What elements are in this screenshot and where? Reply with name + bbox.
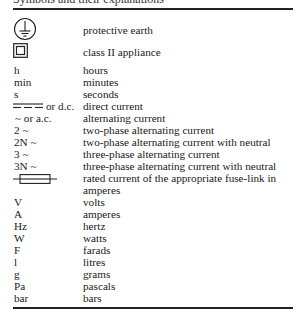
entry-symbol: F [14, 244, 20, 256]
entry-meaning: protective earth [83, 24, 153, 36]
entry-meaning: grams [83, 268, 110, 280]
fuse-link-icon [13, 174, 57, 184]
table-row: g grams [0, 268, 304, 280]
entry-symbol: A [14, 208, 22, 220]
table-row: rated current of the appropriate fuse-li… [0, 172, 304, 196]
entry-meaning: hours [83, 64, 108, 76]
entry-symbol: h [14, 64, 20, 76]
entry-meaning: pascals [83, 280, 115, 292]
bottom-rule [13, 307, 293, 309]
table-row: 3 ~ three-phase alternating current [0, 148, 304, 160]
clipped-header-text: Symbols and their explanations [13, 0, 164, 7]
table-row: W watts [0, 232, 304, 244]
table-row: class II appliance [0, 43, 304, 59]
entry-meaning: seconds [83, 88, 118, 100]
table-row: F farads [0, 244, 304, 256]
entry-meaning: three-phase alternating current with neu… [83, 160, 276, 172]
entry-symbol: bar [14, 292, 28, 304]
entry-meaning: two-phase alternating current [83, 124, 214, 136]
table-row: 3N ~ three-phase alternating current wit… [0, 160, 304, 172]
entry-meaning: direct current [83, 100, 143, 112]
table-row: Hz hertz [0, 220, 304, 232]
entry-meaning-continued: amperes [83, 184, 120, 196]
entry-meaning: litres [83, 256, 105, 268]
entry-symbol: min [14, 76, 31, 88]
entry-symbol: Hz [14, 220, 27, 232]
entry-symbol: s [14, 88, 18, 100]
entry-symbol: g [14, 268, 20, 280]
table-row: V volts [0, 196, 304, 208]
entry-meaning: amperes [83, 208, 120, 220]
table-row: Pa pascals [0, 280, 304, 292]
table-row: or d.c. direct current [0, 100, 304, 112]
entry-meaning: minutes [83, 76, 118, 88]
table-row: A amperes [0, 208, 304, 220]
entry-meaning: watts [83, 232, 107, 244]
entry-meaning: rated current of the appropriate fuse-li… [83, 172, 276, 184]
entry-meaning: two-phase alternating current with neutr… [83, 136, 271, 148]
table-row: ~ or a.c. alternating current [0, 112, 304, 124]
direct-current-icon [13, 103, 43, 109]
table-row: 2 ~ two-phase alternating current [0, 124, 304, 136]
protective-earth-icon [13, 17, 37, 41]
entry-meaning: farads [83, 244, 110, 256]
table-row: l litres [0, 256, 304, 268]
class-ii-appliance-icon [13, 43, 28, 58]
entry-meaning: volts [83, 196, 105, 208]
entry-meaning: alternating current [83, 112, 165, 124]
entry-symbol: l [14, 256, 17, 268]
table-row: bar bars [0, 292, 304, 304]
table-row: h hours [0, 64, 304, 76]
entry-symbol: 3 ~ [14, 148, 28, 160]
entry-symbol: ~ or a.c. [15, 112, 52, 124]
entry-symbol: 3N ~ [14, 160, 37, 172]
entry-symbol: W [14, 232, 25, 244]
entry-meaning: hertz [83, 220, 105, 232]
table-row: protective earth [0, 17, 304, 41]
entry-symbol: or d.c. [46, 100, 74, 112]
entry-meaning: three-phase alternating current [83, 148, 220, 160]
entry-symbol: 2N ~ [14, 136, 37, 148]
entry-meaning: bars [83, 292, 102, 304]
entry-symbol: Pa [14, 280, 25, 292]
entry-meaning: class II appliance [83, 46, 161, 58]
top-rule [13, 8, 293, 10]
table-row: 2N ~ two-phase alternating current with … [0, 136, 304, 148]
entry-symbol: V [14, 196, 22, 208]
table-row: min minutes [0, 76, 304, 88]
table-row: s seconds [0, 88, 304, 100]
entry-symbol: 2 ~ [14, 124, 28, 136]
